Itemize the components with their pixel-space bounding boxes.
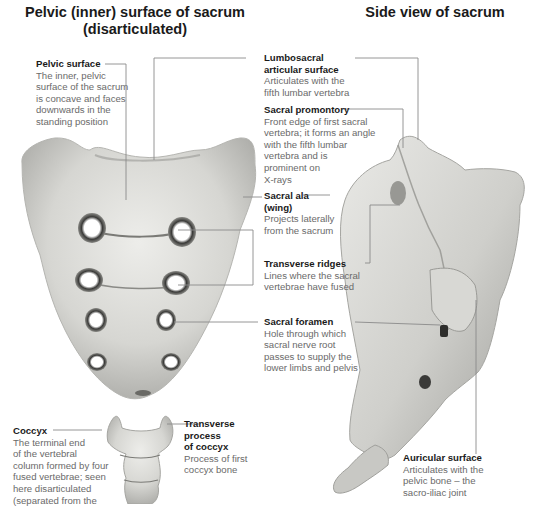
label-auricular-surface: Auricular surface Articulates with the p… [403,452,513,498]
label-heading: Pelvic surface [36,58,136,70]
label-line: pelvic bone – the [403,475,476,486]
label-line: is concave and faces [36,93,126,104]
label-heading: of coccyx [184,441,264,453]
label-line: Articulates with the [403,464,484,475]
label-line: Front edge of first sacral [264,116,367,127]
label-line: from the sacrum [264,225,333,236]
label-heading: Sacral promontory [264,104,379,116]
label-line: fifth lumbar vertebra [264,87,349,98]
label-line: fused vertebrae; seen [13,471,106,482]
sacral-foramen-4-left [87,353,107,371]
label-heading: process [184,430,264,442]
label-sacral-ala: Sacral ala (wing) Projects laterally fro… [264,190,364,236]
label-line: X-rays [264,174,292,185]
label-coccyx: Coccyx The terminal end of the vertebral… [13,425,113,506]
label-line: vertebrae have fused [264,281,354,292]
label-heading: Lumbosacral [264,52,374,64]
label-line: The inner, pelvic [36,70,106,81]
label-heading: Sacral ala [264,190,364,202]
sacral-foramen-3-left [85,308,107,332]
label-heading: Transverse [184,418,264,430]
label-line: vertebra; it forms an angle [264,127,375,138]
label-line: of the vertebral [13,448,77,459]
label-line: with the fifth lumbar [264,139,347,150]
label-heading: Coccyx [13,425,113,437]
label-line: surface of the sacrum [36,81,128,92]
label-line: lower limbs and pelvis [264,362,358,373]
label-sacral-foramen: Sacral foramen Hole through which sacral… [264,316,374,374]
label-line: standing position [36,116,108,127]
sacral-foramen-3-right [156,309,176,331]
label-line: downwards in the [36,104,111,115]
label-line: here disarticulated [13,483,91,494]
label-heading: Transverse ridges [264,258,374,270]
label-line: Hole through which [264,328,346,339]
sacral-foramen-2-left [75,268,103,292]
label-line: Articulates with the [264,75,345,86]
label-heading: articular surface [264,64,374,76]
coccyx-illustration [107,416,173,504]
label-line: vertebra and is [264,150,327,161]
label-line: The terminal end [13,437,85,448]
sacral-foramen-2-right [162,271,190,295]
label-line: prominent on [264,162,320,173]
label-line: sacro-iliac joint [403,487,466,498]
label-line: column formed by four [13,460,108,471]
label-lumbosacral: Lumbosacral articular surface Articulate… [264,52,374,98]
label-heading: Auricular surface [403,452,513,464]
label-line: (separated from the [13,495,97,506]
label-heading: Sacral foramen [264,316,374,328]
sacral-foramen-1-left [78,213,106,243]
label-line: passes to supply the [264,351,351,362]
label-transverse-process-coccyx: Transverse process of coccyx Process of … [184,418,264,476]
label-line: coccyx bone [184,464,237,475]
label-line: sacral nerve root [264,339,335,350]
label-transverse-ridges: Transverse ridges Lines where the sacral… [264,258,374,293]
label-line: Projects laterally [264,213,334,224]
label-line: Lines where the sacral [264,270,360,281]
sacral-foramen-4-right [161,353,181,371]
label-pelvic-surface: Pelvic surface The inner, pelvic surface… [36,58,136,128]
label-line: Process of first [184,453,247,464]
sacrum-front-view [22,138,256,399]
label-sacral-promontory: Sacral promontory Front edge of first sa… [264,104,379,185]
label-heading: (wing) [264,202,364,214]
sacral-foramen-1-right [168,217,196,247]
